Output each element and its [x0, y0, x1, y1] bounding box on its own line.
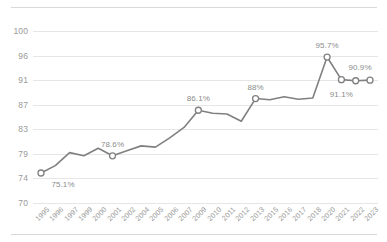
y-axis-tick-label: 96 [18, 51, 28, 61]
data-label: 88% [247, 82, 263, 91]
x-axis-tick-label: 2009 [191, 205, 209, 223]
data-point-marker [195, 107, 201, 113]
x-axis: 1995199619971999200020012002200420052006… [33, 205, 378, 239]
gridline [33, 203, 378, 204]
data-label: 91.1% [330, 89, 353, 98]
data-label: 86.1% [187, 94, 210, 103]
line-series [33, 31, 378, 203]
plot-area: 75.1%78.6%86.1%88%95.7%91.1%90.9% [33, 31, 378, 203]
y-axis: 70747983879196100 [0, 31, 31, 203]
data-point-marker [338, 77, 344, 83]
data-point-marker [253, 96, 259, 102]
y-axis-tick-label: 100 [14, 26, 28, 36]
chart-container: 70747983879196100 75.1%78.6%86.1%88%95.7… [0, 0, 387, 242]
y-axis-tick-label: 79 [18, 149, 28, 159]
x-axis-tick-label: 2023 [362, 205, 380, 223]
top-divider [11, 7, 377, 8]
data-point-marker [353, 78, 359, 84]
x-axis-tick-label: 2012 [234, 205, 252, 223]
data-label: 75.1% [51, 180, 74, 189]
data-point-marker [110, 153, 116, 159]
data-point-marker [324, 54, 330, 60]
y-axis-tick-label: 74 [18, 173, 28, 183]
y-axis-tick-label: 70 [18, 198, 28, 208]
data-label: 95.7% [315, 41, 338, 50]
y-axis-tick-label: 83 [18, 124, 28, 134]
data-label: 78.6% [101, 139, 124, 148]
data-point-marker [38, 170, 44, 176]
y-axis-tick-label: 87 [18, 100, 28, 110]
x-axis-tick-label: 1996 [48, 205, 66, 223]
data-point-marker [367, 77, 373, 83]
data-label: 90.9% [348, 63, 371, 72]
series-line [41, 57, 370, 173]
y-axis-tick-label: 91 [18, 75, 28, 85]
x-axis-tick-label: 2000 [91, 205, 109, 223]
